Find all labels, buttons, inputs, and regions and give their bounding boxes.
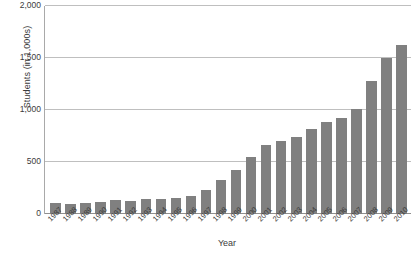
bar-2001: [261, 145, 272, 214]
bar-slot: [319, 6, 334, 214]
bar-slot: [244, 6, 259, 214]
bar-2002: [276, 141, 287, 214]
bar-slot: [229, 6, 244, 214]
y-tick-label: 0: [36, 208, 41, 218]
plot-area: 05001,0001,5002,000: [44, 6, 411, 214]
bar-slot: [349, 6, 364, 214]
bar-slot: [168, 6, 183, 214]
y-axis-title: Students (in 1,000s): [22, 0, 32, 142]
bar-slot: [304, 6, 319, 214]
bar-series: [45, 6, 411, 214]
bar-2007: [351, 109, 362, 214]
bar-slot: [63, 6, 78, 214]
bar-slot: [379, 6, 394, 214]
bar-2009: [381, 58, 392, 214]
y-tick-label: 500: [27, 156, 41, 166]
bar-slot: [183, 6, 198, 214]
bar-slot: [153, 6, 168, 214]
bar-slot: [274, 6, 289, 214]
bar-slot: [198, 6, 213, 214]
bar-slot: [259, 6, 274, 214]
bar-chart: Students (in 1,000s) 05001,0001,5002,000…: [0, 0, 414, 255]
x-axis-title: Year: [44, 238, 410, 248]
bar-slot: [394, 6, 409, 214]
y-tick-label: 2,000: [20, 0, 41, 10]
bar-slot: [78, 6, 93, 214]
bar-2006: [336, 118, 347, 214]
bar-slot: [123, 6, 138, 214]
y-tick-label: 1,000: [20, 104, 41, 114]
bar-2010: [396, 45, 407, 214]
bar-slot: [289, 6, 304, 214]
bar-slot: [214, 6, 229, 214]
bar-2008: [366, 81, 377, 214]
bar-slot: [108, 6, 123, 214]
bar-2004: [306, 129, 317, 214]
bar-slot: [48, 6, 63, 214]
bar-slot: [334, 6, 349, 214]
bar-slot: [138, 6, 153, 214]
bar-slot: [364, 6, 379, 214]
bar-2003: [291, 137, 302, 214]
y-tick-label: 1,500: [20, 52, 41, 62]
bar-2005: [321, 122, 332, 214]
bar-slot: [93, 6, 108, 214]
